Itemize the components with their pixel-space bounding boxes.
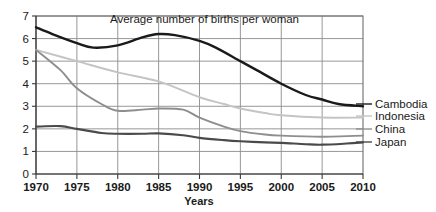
- y-tick-label-6: 6: [23, 33, 29, 45]
- x-tick-label-1980: 1980: [105, 181, 131, 193]
- x-tick-label-1975: 1975: [64, 181, 90, 193]
- legend-label-china: China: [375, 123, 406, 135]
- legend-label-japan: Japan: [375, 136, 406, 148]
- x-tick-label-2005: 2005: [309, 181, 335, 193]
- x-axis-label: Years: [184, 195, 213, 207]
- y-tick-label-1: 1: [23, 145, 29, 157]
- line-chart-svg: 01234567 1970197519801985199019952000200…: [0, 0, 436, 212]
- x-axis-tick-labels: 197019751980198519901995200020052010: [23, 181, 376, 193]
- x-tick-label-2000: 2000: [268, 181, 294, 193]
- y-tick-label-4: 4: [23, 78, 30, 90]
- y-tick-label-0: 0: [23, 168, 29, 180]
- x-axis-tickmarks: [36, 174, 363, 179]
- chart-legend: CambodiaIndonesiaChinaJapan: [356, 98, 428, 148]
- legend-label-cambodia: Cambodia: [375, 98, 428, 110]
- chart-figure: 01234567 1970197519801985199019952000200…: [0, 0, 436, 212]
- y-tick-label-3: 3: [23, 100, 29, 112]
- chart-title: Average number of births per woman: [110, 13, 299, 25]
- y-tick-label-7: 7: [23, 10, 29, 22]
- x-tick-label-1990: 1990: [187, 181, 213, 193]
- legend-label-indonesia: Indonesia: [375, 110, 425, 122]
- x-tick-label-2010: 2010: [350, 181, 376, 193]
- x-tick-label-1970: 1970: [23, 181, 49, 193]
- y-tick-label-2: 2: [23, 123, 29, 135]
- x-tick-label-1995: 1995: [228, 181, 254, 193]
- y-axis-tick-labels: 01234567: [23, 10, 30, 180]
- x-tick-label-1985: 1985: [146, 181, 172, 193]
- y-tick-label-5: 5: [23, 55, 29, 67]
